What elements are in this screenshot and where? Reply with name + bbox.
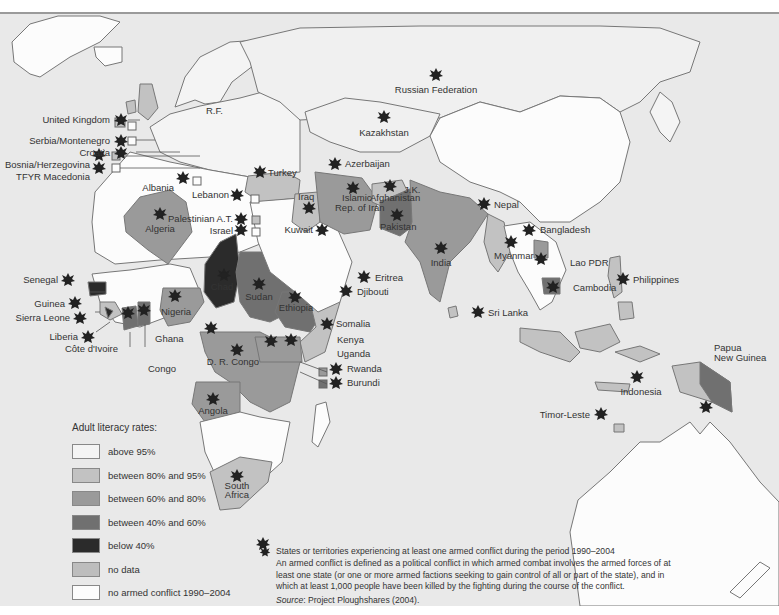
- label-guinea: Guinea: [34, 298, 65, 309]
- label-croatia: Croatia: [79, 147, 110, 158]
- label-indonesia: Indonesia: [620, 386, 662, 397]
- label-ethiopia: Ethiopia: [279, 302, 314, 313]
- legend-item: no data: [72, 558, 272, 582]
- label-iran-2: Rep. of Iran: [335, 202, 385, 213]
- label-uganda: Uganda: [337, 348, 371, 359]
- legend-label: between 40% and 60%: [108, 517, 206, 528]
- source-text: : Project Ploughshares (2004).: [303, 595, 419, 605]
- label-congo: Congo: [148, 363, 176, 374]
- label-png-2: New Guinea: [714, 352, 767, 363]
- legend-title: Adult literacy rates:: [72, 422, 272, 433]
- label-ghana: Ghana: [155, 333, 184, 344]
- legend-swatch: [72, 538, 100, 553]
- legend-swatch: [72, 491, 100, 506]
- label-india: India: [431, 257, 452, 268]
- label-russia: Russian Federation: [395, 84, 477, 95]
- label-cambodia: Cambodia: [573, 282, 617, 293]
- conflict-star-icon: [258, 546, 272, 558]
- legend-item: below 40%: [72, 534, 272, 558]
- label-timor: Timor-Leste: [540, 409, 590, 420]
- label-iraq: Iraq: [298, 191, 314, 202]
- label-israel: Israel: [210, 225, 233, 236]
- legend-swatch: [72, 515, 100, 530]
- label-albania: Albania: [142, 182, 174, 193]
- label-macedonia: TFYR Macedonia: [16, 171, 91, 182]
- label-sudan: Sudan: [245, 291, 272, 302]
- label-sri-lanka: Sri Lanka: [488, 307, 529, 318]
- legend-label: between 60% and 80%: [108, 493, 206, 504]
- label-jk: J.K.: [404, 184, 420, 195]
- legend-item: no armed conflict 1990–2004: [72, 581, 272, 605]
- map-frame: United Kingdom Serbia/Montenegro Croatia…: [0, 12, 779, 606]
- label-lebanon: Lebanon: [192, 189, 229, 200]
- source-label: Source: [276, 595, 303, 605]
- label-nepal: Nepal: [494, 199, 519, 210]
- label-eritrea: Eritrea: [375, 272, 404, 283]
- source-citation: Source: Project Ploughshares (2004).: [258, 595, 678, 606]
- label-united-kingdom: United Kingdom: [42, 114, 110, 125]
- legend-item: above 95%: [72, 440, 272, 464]
- label-azerbaijan: Azerbaijan: [345, 158, 390, 169]
- label-angola: Angola: [198, 405, 228, 416]
- legend-label: between 80% and 95%: [108, 470, 206, 481]
- label-philippines: Philippines: [633, 274, 679, 285]
- legend-item: between 80% and 95%: [72, 464, 272, 488]
- label-kenya: Kenya: [337, 334, 365, 345]
- legend-label: no data: [108, 564, 140, 575]
- label-cote-divoire: Côte d'Ivoire: [65, 343, 118, 354]
- label-rf: R.F.: [206, 105, 223, 116]
- label-palestinian: Palestinian A.T.: [168, 213, 233, 224]
- legend-label: below 40%: [108, 540, 154, 551]
- label-lao: Lao PDR: [570, 257, 609, 268]
- label-liberia: Liberia: [49, 331, 78, 342]
- label-serbia-montenegro: Serbia/Montenegro: [29, 135, 110, 146]
- label-turkey: Turkey: [268, 167, 297, 178]
- legend-swatch: [72, 468, 100, 483]
- label-senegal: Senegal: [23, 274, 58, 285]
- star-legend-text: States or territories experiencing at le…: [276, 546, 615, 558]
- legend-swatch: [72, 444, 100, 459]
- legend-swatch: [72, 562, 100, 577]
- legend-item: between 40% and 60%: [72, 511, 272, 535]
- label-kuwait: Kuwait: [284, 224, 313, 235]
- label-burundi: Burundi: [347, 377, 380, 388]
- legend-label: no armed conflict 1990–2004: [108, 587, 231, 598]
- legend-swatch: [72, 585, 100, 600]
- label-pakistan: Pakistan: [380, 221, 416, 232]
- label-somalia: Somalia: [336, 318, 371, 329]
- footnote: States or territories experiencing at le…: [258, 546, 678, 606]
- legend-item: between 60% and 80%: [72, 487, 272, 511]
- label-sierra-leone: Sierra Leone: [16, 312, 70, 323]
- legend-label: above 95%: [108, 446, 156, 457]
- label-drc: D. R. Congo: [207, 356, 259, 367]
- legend: Adult literacy rates: above 95% between …: [72, 422, 272, 605]
- label-myanmar: Myanmar: [494, 250, 534, 261]
- label-nigeria: Nigeria: [161, 306, 192, 317]
- label-bangladesh: Bangladesh: [540, 224, 590, 235]
- label-algeria: Algeria: [145, 223, 175, 234]
- label-bosnia: Bosnia/Herzegovina: [5, 159, 91, 170]
- label-rwanda: Rwanda: [347, 363, 383, 374]
- label-djibouti: Djibouti: [357, 286, 389, 297]
- label-chad: Chad: [211, 281, 234, 292]
- label-kazakhstan: Kazakhstan: [359, 127, 409, 138]
- conflict-definition: An armed conflict is defined as a politi…: [258, 558, 678, 593]
